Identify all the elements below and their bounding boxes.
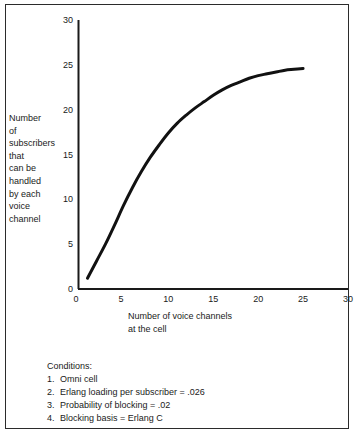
x-tick-label: 15 [208, 294, 218, 304]
data-line-group [87, 68, 303, 278]
condition-number: 3. [47, 399, 60, 412]
x-tick-label: 5 [118, 294, 123, 304]
y-tick-label: 15 [59, 150, 73, 160]
data-line-subscribers [87, 68, 303, 278]
conditions-title: Conditions: [47, 360, 205, 373]
condition-number: 1. [47, 373, 60, 386]
condition-item: 4. Blocking basis = Erlang C [47, 412, 205, 425]
condition-number: 2. [47, 386, 60, 399]
y-tick-label: 5 [59, 239, 73, 249]
condition-text: Omni cell [60, 373, 98, 386]
x-tick-label: 30 [343, 294, 353, 304]
y-tick-label: 10 [59, 194, 73, 204]
y-axis-label-line: subscribers [9, 137, 71, 150]
y-axis-label-line: can be [9, 162, 71, 175]
x-axis-label: Number of voice channels at the cell [128, 310, 232, 335]
x-tick-label: 10 [163, 294, 173, 304]
condition-item: 3. Probability of blocking = .02 [47, 399, 205, 412]
condition-text: Probability of blocking = .02 [60, 399, 170, 412]
condition-text: Blocking basis = Erlang C [60, 412, 163, 425]
axis-lines [78, 20, 348, 289]
conditions-block: Conditions: 1. Omni cell 2. Erlang loadi… [47, 360, 205, 425]
condition-number: 4. [47, 412, 60, 425]
condition-item: 2. Erlang loading per subscriber = .026 [47, 386, 205, 399]
x-axis-label-line: Number of voice channels [128, 310, 232, 323]
x-tick-label: 25 [298, 294, 308, 304]
x-tick-label: 0 [74, 294, 79, 304]
y-axis-label-line: channel [9, 213, 71, 226]
y-tick-label: 20 [59, 105, 73, 115]
y-tick-label: 25 [59, 60, 73, 70]
condition-item: 1. Omni cell [47, 373, 205, 386]
y-axis-label-line: handled [9, 175, 71, 188]
condition-text: Erlang loading per subscriber = .026 [60, 386, 205, 399]
y-tick-label: 30 [59, 15, 73, 25]
y-axis-label: Number of subscribers that can be handle… [9, 112, 71, 225]
y-tick-label: 0 [59, 284, 73, 294]
y-axis-label-line: of [9, 125, 71, 138]
figure-canvas: Number of subscribers that can be handle… [0, 0, 356, 443]
x-axis-label-line: at the cell [128, 323, 232, 336]
x-tick-label: 20 [253, 294, 263, 304]
